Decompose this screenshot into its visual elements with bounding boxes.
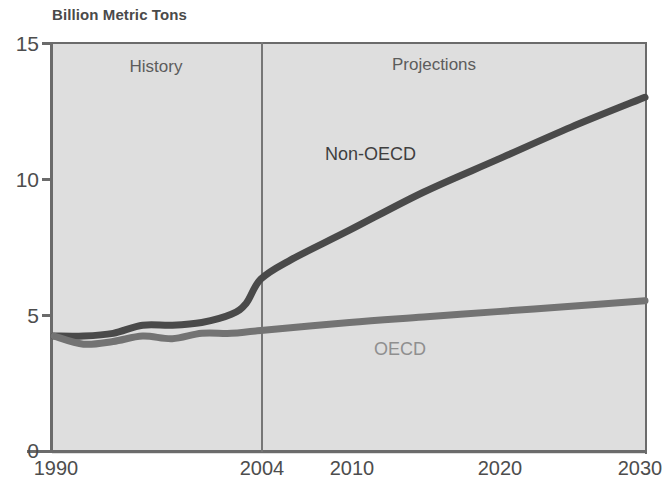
y-tick-mark-10	[42, 178, 52, 181]
history-projections-divider	[261, 42, 263, 452]
series-label-non-oecd: Non-OECD	[325, 145, 416, 163]
x-tick-label-2020: 2020	[478, 458, 523, 478]
y-tick-label-10: 10	[16, 169, 39, 190]
chart-figure: Billion Metric Tons 15 10 5 0 1990 2004 …	[0, 0, 665, 502]
plot-area	[52, 42, 647, 454]
y-tick-mark-0	[42, 450, 52, 453]
x-tick-label-1990: 1990	[34, 458, 79, 478]
y-axis	[50, 42, 53, 453]
series-label-oecd: OECD	[374, 340, 426, 358]
x-tick-label-2004: 2004	[240, 458, 285, 478]
y-tick-mark-5	[42, 314, 52, 317]
x-tick-label-2030: 2030	[618, 458, 663, 478]
annotation-projections: Projections	[392, 56, 476, 73]
annotation-history: History	[130, 58, 183, 75]
chart-title: Billion Metric Tons	[52, 7, 187, 22]
x-tick-label-2010: 2010	[330, 458, 375, 478]
x-axis	[27, 450, 647, 453]
y-tick-mark-15	[42, 42, 52, 45]
y-tick-label-5: 5	[27, 305, 39, 326]
y-tick-label-15: 15	[16, 33, 39, 54]
